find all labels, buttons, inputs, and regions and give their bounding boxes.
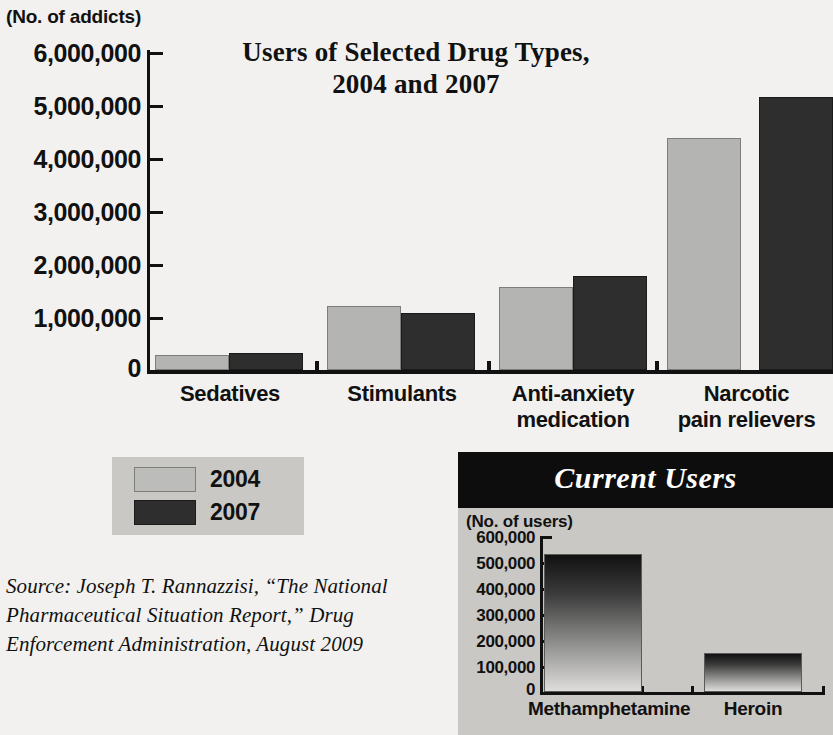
inset-y-axis-label-300000: 300,000 xyxy=(476,607,535,624)
legend-label-2007: 2007 xyxy=(210,499,260,526)
category-label-narcotic: Narcotic pain relievers xyxy=(660,381,833,433)
chart-title: Users of Selected Drug Types, 2004 and 2… xyxy=(186,36,646,100)
category-label-stimulants-line1: Stimulants xyxy=(322,381,482,407)
inset-y-axis-label-100000: 100,000 xyxy=(476,659,535,676)
legend-swatch-2007 xyxy=(134,500,196,525)
category-label-sedatives: Sedatives xyxy=(152,381,308,407)
chart-title-line2: 2004 and 2007 xyxy=(186,68,646,100)
x-tick-separator-3 xyxy=(655,361,659,371)
main-bar-chart: (No. of addicts) Users of Selected Drug … xyxy=(0,0,833,440)
bar-narcotic-2007 xyxy=(759,97,833,370)
bar-narcotic-2004 xyxy=(667,138,741,370)
legend-label-2004: 2004 xyxy=(210,466,260,493)
y-axis-label-6000000: 6,000,000 xyxy=(33,41,141,66)
y-tick-4000000 xyxy=(150,158,163,161)
x-tick-separator-1 xyxy=(315,361,319,371)
inset-y-axis-label-200000: 200,000 xyxy=(476,633,535,650)
chart-legend: 2004 2007 xyxy=(112,457,304,535)
inset-y-axis-label-400000: 400,000 xyxy=(476,581,535,598)
y-tick-5000000 xyxy=(150,105,163,108)
inset-x-axis-line xyxy=(540,692,825,695)
y-axis-label-0: 0 xyxy=(127,356,141,381)
category-label-narcotic-line2: pain relievers xyxy=(660,407,833,433)
chart-title-line1: Users of Selected Drug Types, xyxy=(186,36,646,68)
inset-category-label-methamphetamine: Methamphetamine xyxy=(528,698,660,720)
y-tick-6000000 xyxy=(150,52,163,55)
y-axis-label-4000000: 4,000,000 xyxy=(33,147,141,172)
y-axis-unit-label: (No. of addicts) xyxy=(6,6,141,28)
category-label-anti-anxiety-line2: medication xyxy=(490,407,656,433)
inset-y-axis-label-600000: 600,000 xyxy=(476,529,535,546)
inset-x-tick-3 xyxy=(822,686,825,693)
category-label-stimulants: Stimulants xyxy=(322,381,482,407)
bar-stimulants-2007 xyxy=(401,313,475,370)
bar-sedatives-2007 xyxy=(229,353,303,370)
inset-x-tick-2 xyxy=(691,686,694,693)
inset-y-tick-600000 xyxy=(543,536,552,539)
y-tick-1000000 xyxy=(150,317,163,320)
bar-anti-anxiety-2004 xyxy=(499,287,573,370)
y-tick-3000000 xyxy=(150,211,163,214)
bar-anti-anxiety-2007 xyxy=(573,276,647,370)
y-axis-label-5000000: 5,000,000 xyxy=(33,94,141,119)
source-note: Source: Joseph T. Rannazzisi, “The Natio… xyxy=(6,572,436,659)
y-axis-label-2000000: 2,000,000 xyxy=(33,253,141,278)
category-label-narcotic-line1: Narcotic xyxy=(660,381,833,407)
bar-sedatives-2004 xyxy=(155,355,229,370)
y-axis-label-3000000: 3,000,000 xyxy=(33,200,141,225)
category-label-anti-anxiety: Anti-anxiety medication xyxy=(490,381,656,433)
category-label-sedatives-line1: Sedatives xyxy=(152,381,308,407)
category-label-anti-anxiety-line1: Anti-anxiety xyxy=(490,381,656,407)
inset-bar-methamphetamine xyxy=(544,554,642,692)
inset-category-label-heroin: Heroin xyxy=(696,698,810,720)
x-tick-separator-2 xyxy=(487,361,491,371)
inset-y-axis-label-0: 0 xyxy=(526,681,535,698)
bar-stimulants-2004 xyxy=(327,306,401,370)
inset-y-axis-label-500000: 500,000 xyxy=(476,555,535,572)
inset-bar-chart: 600,000 500,000 400,000 300,000 200,000 … xyxy=(458,452,833,735)
inset-bar-heroin xyxy=(704,653,802,692)
legend-swatch-2004 xyxy=(134,467,196,492)
y-axis-label-1000000: 1,000,000 xyxy=(33,306,141,331)
y-tick-2000000 xyxy=(150,264,163,267)
current-users-inset-panel: Current Users (No. of users) 600,000 500… xyxy=(458,452,833,735)
